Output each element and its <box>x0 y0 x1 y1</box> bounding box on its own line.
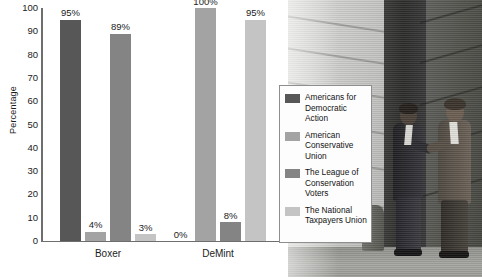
bar-boxer-ntu[interactable] <box>135 234 156 241</box>
y-tick-label: 70 <box>27 73 38 83</box>
legend-swatch-icon <box>285 169 300 178</box>
bar-demint-ntu[interactable] <box>245 20 266 241</box>
bar-value-label: 95% <box>54 8 88 18</box>
y-tick-label: 50 <box>27 120 38 130</box>
y-tick-label: 60 <box>27 96 38 106</box>
bar-boxer-acu[interactable] <box>85 232 106 241</box>
y-tick-label: 80 <box>27 50 38 60</box>
bar-group-boxer: 95%4%89%3% <box>60 8 160 241</box>
bar-value-label: 0% <box>164 230 198 240</box>
legend-swatch-icon <box>285 207 300 216</box>
bar-value-label: 4% <box>79 220 113 230</box>
bar-value-label: 8% <box>214 211 248 221</box>
y-tick-label: 40 <box>27 143 38 153</box>
bar-value-label: 89% <box>104 22 138 32</box>
legend-item-1[interactable]: American Conservative Union <box>285 130 367 162</box>
bar-demint-lcv[interactable] <box>220 222 241 241</box>
legend-item-2[interactable]: The League of Conservation Voters <box>285 167 367 199</box>
chart-legend: Americans for Democratic ActionAmerican … <box>279 85 372 243</box>
legend-label: The National Taxpayers Union <box>305 205 367 226</box>
legend-item-0[interactable]: Americans for Democratic Action <box>285 92 367 124</box>
legend-swatch-icon <box>285 132 300 141</box>
legend-item-3[interactable]: The National Taxpayers Union <box>285 205 367 226</box>
y-tick-label: 10 <box>27 213 38 223</box>
legend-swatch-icon <box>285 94 300 103</box>
x-axis-labels: BoxerDeMint <box>42 248 285 264</box>
y-tick-label: 100 <box>22 3 38 13</box>
y-tick-label: 0 <box>33 236 38 246</box>
y-tick-label: 30 <box>27 166 38 176</box>
bar-boxer-ada[interactable] <box>60 20 81 241</box>
y-tick-label: 20 <box>27 190 38 200</box>
y-axis-ticks: 0102030405060708090100 <box>14 0 38 277</box>
x-label-demint: DeMint <box>178 248 258 259</box>
y-tick-label: 90 <box>27 27 38 37</box>
bar-boxer-lcv[interactable] <box>110 34 131 241</box>
bar-value-label: 95% <box>239 8 273 18</box>
bar-demint-acu[interactable] <box>195 8 216 241</box>
x-label-boxer: Boxer <box>68 248 148 259</box>
bar-chart: Percentage 0102030405060708090100 95%4%8… <box>0 0 290 277</box>
legend-label: Americans for Democratic Action <box>305 92 367 124</box>
bar-value-label: 100% <box>189 0 223 6</box>
legend-label: American Conservative Union <box>305 130 367 162</box>
bar-group-demint: 0%100%8%95% <box>170 8 270 241</box>
legend-label: The League of Conservation Voters <box>305 167 367 199</box>
figure-root: Percentage 0102030405060708090100 95%4%8… <box>0 0 482 277</box>
plot-area: 95%4%89%3%0%100%8%95% <box>42 8 285 241</box>
bar-value-label: 3% <box>129 223 163 233</box>
